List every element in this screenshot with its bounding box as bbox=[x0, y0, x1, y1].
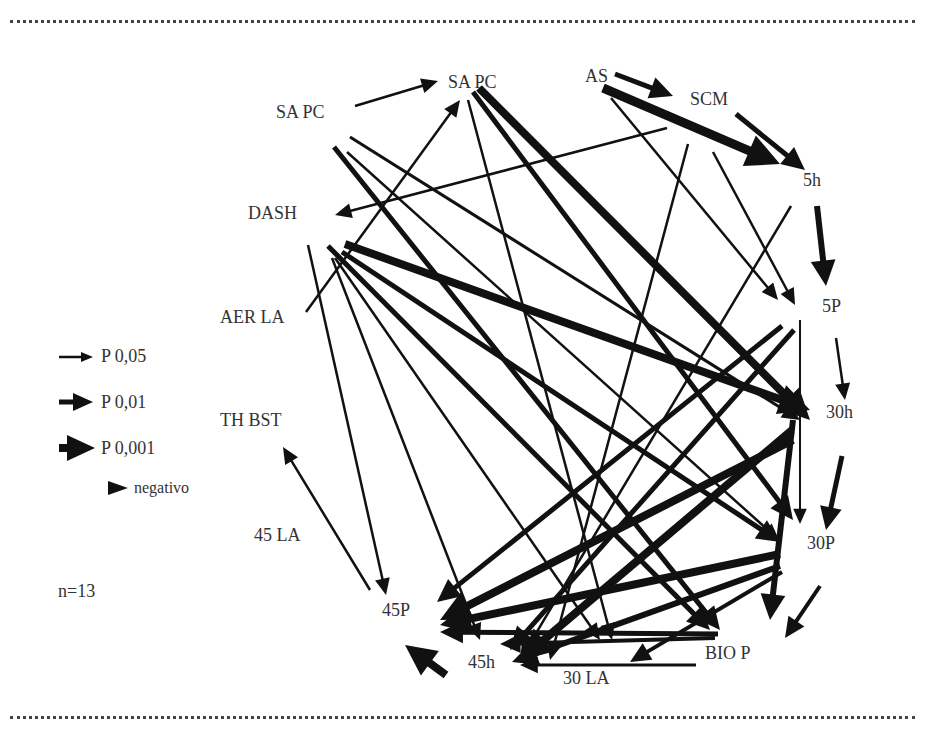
node-sapc-left: SA PC bbox=[276, 103, 325, 121]
node-as: AS bbox=[585, 67, 608, 85]
thick-arrow-icon bbox=[57, 433, 97, 463]
node-45p: 45P bbox=[382, 601, 410, 619]
edge-arrow bbox=[405, 645, 446, 675]
edge-arrow bbox=[440, 440, 793, 620]
edges-group bbox=[283, 74, 850, 675]
node-bio-p: BIO P bbox=[705, 644, 751, 662]
legend-label: P 0,001 bbox=[101, 438, 155, 459]
edge-arrow bbox=[811, 206, 836, 286]
legend-item-p001: P 0,01 bbox=[57, 390, 146, 414]
edge-arrow bbox=[520, 430, 792, 660]
node-30p: 30P bbox=[807, 534, 835, 552]
edge-arrow bbox=[334, 147, 720, 630]
node-45h: 45h bbox=[468, 653, 495, 671]
legend-label: P 0,01 bbox=[101, 392, 146, 413]
legend-item-p005: P 0,05 bbox=[57, 346, 146, 367]
medium-arrow-icon bbox=[57, 390, 97, 414]
sample-size-label: n=13 bbox=[58, 581, 95, 602]
legend-item-negative: negativo bbox=[106, 478, 189, 498]
edge-arrow bbox=[785, 586, 820, 638]
arrowhead-icon bbox=[106, 478, 130, 498]
bottom-dotted-rule bbox=[10, 716, 915, 719]
node-dash: DASH bbox=[248, 204, 297, 222]
node-30h: 30h bbox=[826, 403, 853, 421]
edge-arrow bbox=[713, 152, 795, 305]
edge-arrow bbox=[835, 338, 850, 400]
edge-arrow bbox=[355, 79, 438, 106]
node-45la: 45 LA bbox=[254, 526, 301, 544]
legend-label: P 0,05 bbox=[101, 346, 146, 367]
node-30la: 30 LA bbox=[563, 669, 610, 687]
node-th-bst: TH BST bbox=[220, 411, 282, 429]
thin-arrow-icon bbox=[57, 347, 97, 367]
node-5p: 5P bbox=[822, 297, 841, 315]
legend-item-p0001: P 0,001 bbox=[57, 433, 155, 463]
legend-label: negativo bbox=[134, 479, 189, 497]
node-sapc-top: SA PC bbox=[448, 73, 497, 91]
edge-arrow bbox=[820, 456, 842, 530]
node-5h: 5h bbox=[803, 171, 821, 189]
node-aer-la: AER LA bbox=[220, 308, 285, 326]
node-scm: SCM bbox=[690, 90, 728, 108]
